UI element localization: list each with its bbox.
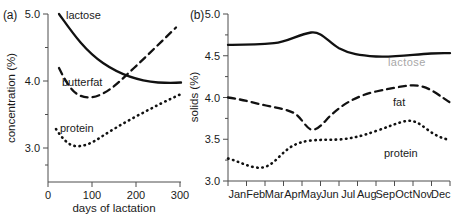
panel-a-ytick-label-3: 3.0 [25, 142, 40, 154]
panel-b-curve-protein [228, 121, 450, 168]
panel-b-xtick-label-oct: Oct [395, 188, 412, 200]
panel-a-label-lactose: lactose [66, 9, 101, 21]
panel-b-label-protein: protein [384, 147, 418, 159]
panel-a-x-axis-title: days of lactation [72, 202, 155, 214]
panel-b-xtick-label-sep: Sep [375, 188, 395, 200]
panel-b-xtick-label-jan: Jan [228, 188, 246, 200]
panel-b-xtick-label-apr: Apr [284, 188, 301, 200]
panel-a: (a) 5.0 4.0 3.0 concentration (%) [0, 0, 190, 215]
panel-a-curve-lactose [59, 14, 181, 83]
panel-b-ytick-label-5.0: 5.0 [205, 8, 220, 20]
panel-a-xtick-label-200: 200 [127, 189, 145, 201]
panel-a-ytick-label-5: 5.0 [25, 8, 40, 20]
panel-b-xtick-label-mar: Mar [265, 188, 284, 200]
panel-b-xtick-label-may: May [301, 188, 322, 200]
panel-b-xtick-label-nov: Nov [412, 188, 432, 200]
panel-a-label-protein: protein [60, 122, 94, 134]
panel-b-label-fat: fat [393, 96, 405, 108]
panel-b-curve-fat [228, 85, 450, 129]
panel-b-ytick-label-3.0: 3.0 [205, 175, 220, 187]
panel-b-xtick-label-jun: Jun [321, 188, 339, 200]
panel-b-xtick-label-aug: Aug [357, 188, 377, 200]
panel-b-ytick-label-3.5: 3.5 [205, 133, 220, 145]
panel-a-ytick-label-4: 4.0 [25, 75, 40, 87]
panel-b-ytick-label-4.0: 4.0 [205, 92, 220, 104]
panel-b-xtick-label-feb: Feb [246, 188, 265, 200]
panel-a-label-butterfat: butterfat [62, 76, 102, 88]
panel-b-ytick-label-4.5: 4.5 [205, 50, 220, 62]
panel-b-xtick-label-jul: Jul [341, 188, 355, 200]
panel-b-plot: 5.0 4.5 4.0 3.5 3.0 solids (%) Jan Feb M… [188, 0, 454, 215]
panel-b-label-lactose: lactose [388, 56, 426, 68]
panel-a-xtick-label-0: 0 [45, 189, 51, 201]
panel-a-plot: 5.0 4.0 3.0 concentration (%) 0 100 200 … [0, 0, 190, 215]
panel-a-y-axis-title: concentration (%) [5, 53, 17, 143]
panel-a-xtick-label-300: 300 [171, 189, 189, 201]
panel-a-curve-protein [56, 94, 181, 146]
panel-b-xtick-label-dec: Dec [431, 188, 451, 200]
panel-b: (b) 5.0 4.5 4.0 3.5 3.0 solids (%) [188, 0, 454, 215]
figure-container: (a) 5.0 4.0 3.0 concentration (%) [0, 0, 454, 215]
panel-a-xtick-label-100: 100 [83, 189, 101, 201]
panel-b-y-axis-title: solids (%) [188, 72, 200, 123]
panel-b-curve-lactose [228, 32, 450, 56]
